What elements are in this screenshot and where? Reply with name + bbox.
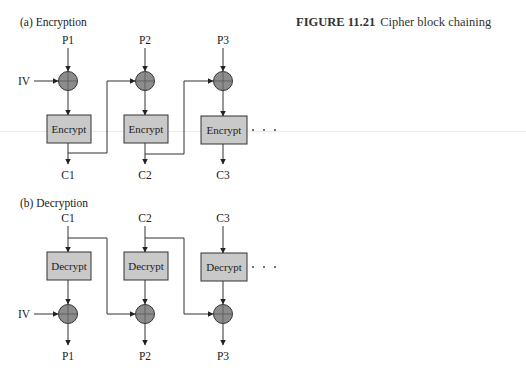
dec-iv-label: IV [18,308,31,320]
enc-input-3: P3 [217,34,229,46]
xor-icon [59,72,78,91]
xor-icon [214,305,233,324]
enc-ellipsis [252,129,276,131]
xor-icon [136,72,155,91]
enc-output-3: C3 [216,169,230,181]
enc-output-1: C1 [61,169,75,181]
enc-input-1: P1 [62,34,74,46]
dec-input-3: C3 [216,212,230,224]
dec-stage-3: C3 Decrypt P3 [201,212,247,362]
dec-input-1: C1 [61,212,75,224]
enc-input-2: P2 [139,34,151,46]
enc-output-2: C2 [138,169,152,181]
decrypt-label-2: Decrypt [128,260,163,272]
encrypt-label-3: Encrypt [207,124,242,136]
enc-iv-label: IV [18,75,31,87]
xor-icon [136,305,155,324]
dec-input-2: C2 [138,212,152,224]
cbc-diagram: (a) Encryption IV P1 Encrypt C1 P2 [0,0,526,377]
xor-icon [214,72,233,91]
enc-stage-1: P1 Encrypt C1 [47,34,135,181]
dec-output-2: P2 [139,350,151,362]
dec-output-1: P1 [62,350,74,362]
decrypt-label-1: Decrypt [51,260,86,272]
decryption-heading: (b) Decryption [20,197,88,210]
enc-stage-2: P2 Encrypt C2 [124,34,213,181]
enc-stage-3: P3 Encrypt C3 [201,34,247,181]
dec-ellipsis [252,266,276,268]
encryption-section: (a) Encryption IV P1 Encrypt C1 P2 [18,16,276,181]
xor-icon [59,305,78,324]
dec-stage-1: C1 Decrypt P1 [47,212,135,362]
encrypt-label-2: Encrypt [129,123,164,135]
encryption-heading: (a) Encryption [20,16,87,29]
dec-stage-2: C2 Decrypt P2 [124,212,213,362]
dec-output-3: P3 [217,350,229,362]
decryption-section: (b) Decryption C1 Decrypt P1 IV C2 Dec [18,197,276,362]
decrypt-label-3: Decrypt [206,261,241,273]
encrypt-label-1: Encrypt [52,123,87,135]
